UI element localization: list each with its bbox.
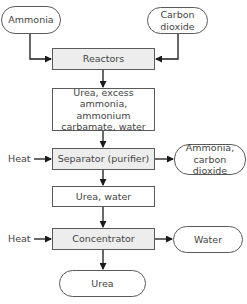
process-concentrator: Concentrator: [52, 228, 155, 250]
process-reactors: Reactors: [52, 48, 155, 70]
output-water: Water: [173, 226, 243, 253]
separator-label: Separator (purifier): [58, 153, 150, 165]
heat-concentrator-label: Heat: [8, 233, 31, 244]
input-ammonia-label: Ammonia: [8, 14, 53, 26]
input-carbon-dioxide: Carbon dioxide: [147, 7, 208, 34]
stream-mixture: Urea, excess ammonia, ammonium carbamate…: [52, 88, 155, 131]
arrow-ammonia-to-reactors: [30, 34, 51, 59]
water-label: Water: [194, 234, 222, 246]
heat-separator-label: Heat: [8, 153, 31, 164]
input-co2-line1: Carbon: [160, 9, 194, 21]
arrow-co2-to-reactors: [156, 34, 178, 59]
output-ammonia-co2: Ammonia, carbon dioxide: [174, 144, 246, 175]
recycle-line2: carbon dioxide: [175, 154, 245, 177]
stream-urea-water: Urea, water: [52, 186, 155, 207]
urea-label: Urea: [91, 278, 113, 290]
output-urea: Urea: [59, 270, 146, 297]
mixture-line2: ammonia, ammonium: [53, 98, 154, 121]
mixture-line1: Urea, excess: [73, 87, 133, 99]
input-co2-line2: dioxide: [160, 21, 194, 33]
reactors-label: Reactors: [83, 53, 124, 65]
urea-water-label: Urea, water: [76, 191, 131, 203]
input-ammonia: Ammonia: [1, 6, 61, 34]
process-separator: Separator (purifier): [52, 148, 155, 170]
recycle-line1: Ammonia,: [186, 142, 234, 154]
concentrator-label: Concentrator: [72, 233, 134, 245]
mixture-line3: carbamate, water: [61, 121, 146, 133]
